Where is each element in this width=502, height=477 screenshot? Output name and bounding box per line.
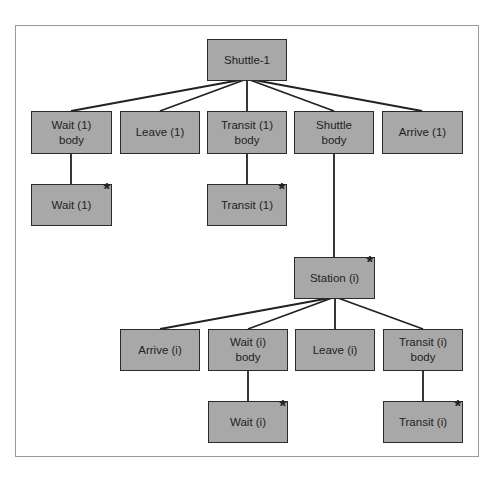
node-wait-i-body: Wait (i) body: [208, 329, 288, 371]
node-wait-i: Wait (i) *: [208, 401, 288, 443]
repeat-marker-icon: *: [366, 254, 373, 271]
node-wait-1-body: Wait (1) body: [31, 111, 112, 154]
node-label: Station (i): [310, 271, 359, 286]
node-shuttle-body: Shuttle body: [294, 111, 374, 154]
node-label: Leave (1): [136, 125, 185, 140]
node-transit-1-body: Transit (1) body: [207, 111, 287, 154]
node-label: Arrive (i): [138, 343, 181, 358]
node-arrive-1: Arrive (1): [382, 111, 463, 154]
node-label: Shuttle body: [316, 118, 352, 148]
node-label: Wait (i) body: [230, 335, 266, 365]
node-shuttle-1: Shuttle-1: [207, 39, 287, 81]
repeat-marker-icon: *: [103, 181, 110, 198]
node-label: Transit (1) body: [221, 118, 273, 148]
repeat-marker-icon: *: [454, 398, 461, 415]
node-transit-i: Transit (i) *: [383, 401, 463, 443]
node-transit-1: Transit (1) *: [207, 184, 287, 226]
node-label: Shuttle-1: [224, 53, 270, 68]
node-leave-i: Leave (i): [295, 329, 375, 371]
node-label: Wait (i): [230, 415, 266, 430]
node-leave-1: Leave (1): [120, 111, 200, 154]
node-label: Arrive (1): [399, 125, 446, 140]
node-label: Transit (1): [221, 198, 273, 213]
node-wait-1: Wait (1) *: [31, 184, 112, 226]
node-label: Leave (i): [313, 343, 358, 358]
node-label: Wait (1) body: [52, 118, 92, 148]
node-label: Wait (1): [52, 198, 92, 213]
node-arrive-i: Arrive (i): [120, 329, 200, 371]
repeat-marker-icon: *: [278, 181, 285, 198]
node-transit-i-body: Transit (i) body: [383, 329, 463, 371]
node-station-i: Station (i) *: [294, 257, 375, 299]
node-label: Transit (i) body: [399, 335, 447, 365]
node-label: Transit (i): [399, 415, 447, 430]
repeat-marker-icon: *: [279, 398, 286, 415]
